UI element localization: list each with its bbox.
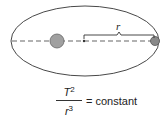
radius-bracket xyxy=(84,32,154,39)
fraction-numerator: T2 xyxy=(63,84,74,98)
numerator-exponent: 2 xyxy=(70,85,74,94)
radius-label: r xyxy=(116,20,121,32)
center-point xyxy=(83,40,85,42)
fraction: T2 r3 xyxy=(56,84,82,117)
kepler-formula: T2 r3 = constant xyxy=(56,84,137,117)
fraction-bar xyxy=(56,100,82,101)
formula-rhs: = constant xyxy=(86,95,137,107)
fraction-denominator: r3 xyxy=(65,103,73,117)
planet-icon xyxy=(151,37,160,46)
star-icon xyxy=(50,34,64,48)
denominator-exponent: 3 xyxy=(69,104,73,113)
